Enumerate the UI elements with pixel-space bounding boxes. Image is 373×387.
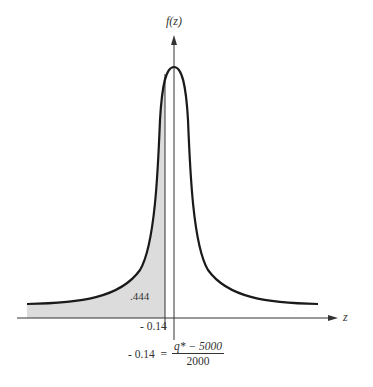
x-axis-label: z bbox=[343, 310, 348, 325]
formula-fraction: q* − 5000 2000 bbox=[172, 340, 224, 367]
formula-lhs: - 0.14 = bbox=[128, 348, 167, 360]
density-curve bbox=[27, 67, 318, 304]
formula-denominator: 2000 bbox=[187, 354, 210, 367]
y-axis-arrow-icon bbox=[171, 35, 177, 45]
formula: - 0.14 = q* − 5000 2000 bbox=[128, 340, 224, 367]
y-axis-label: f(z) bbox=[166, 14, 182, 29]
formula-numerator: q* − 5000 bbox=[172, 340, 224, 354]
x-axis-arrow-icon bbox=[328, 315, 338, 321]
density-plot bbox=[0, 0, 373, 387]
area-label: .444 bbox=[130, 290, 149, 302]
tick-label: - 0.14 bbox=[140, 320, 167, 332]
shaded-area bbox=[27, 74, 165, 318]
